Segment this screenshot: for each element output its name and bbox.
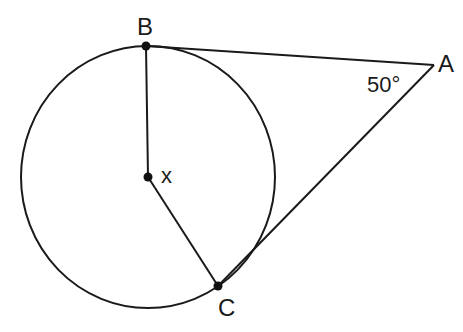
label-a: A	[438, 50, 454, 77]
label-x: x	[161, 163, 172, 188]
tangent-segment-ab	[146, 46, 434, 65]
point-x-center	[144, 173, 153, 182]
point-b	[142, 42, 151, 51]
point-c	[214, 282, 223, 291]
radius-xc	[148, 177, 218, 286]
geometry-diagram: B A x C 50°	[0, 0, 463, 332]
label-c: C	[218, 294, 235, 321]
angle-label: 50°	[367, 72, 400, 97]
radius-xb	[146, 46, 148, 177]
diagram-svg: B A x C 50°	[0, 0, 463, 332]
label-b: B	[137, 13, 153, 40]
